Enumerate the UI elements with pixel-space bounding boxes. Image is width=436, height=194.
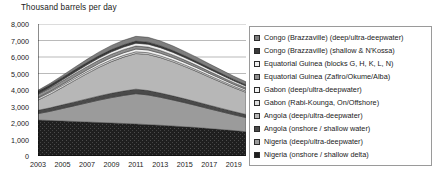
y-axis-tick-label: 0: [0, 152, 34, 161]
legend-swatch-icon: [254, 48, 260, 54]
legend-item[interactable]: Angola (onshore / shallow water): [254, 122, 428, 135]
legend-item[interactable]: Congo (Brazzaville) (shallow & N'Kossa): [254, 44, 428, 57]
legend-item-label: Nigeria (deep/ultra-deepwater): [264, 138, 363, 145]
legend-swatch-icon: [254, 87, 260, 93]
legend-item-label: Congo (Brazzaville) (shallow & N'Kossa): [264, 47, 395, 54]
plot-area: [38, 24, 246, 156]
x-axis-tick-label: 2005: [54, 160, 70, 169]
legend-item[interactable]: Congo (Brazzaville) (deep/ultra-deepwate…: [254, 31, 428, 44]
legend-item[interactable]: Equatorial Guinea (blocks G, H, K, L, N): [254, 57, 428, 70]
x-axis-tick-label: 2003: [30, 160, 46, 169]
legend-swatch-icon: [254, 61, 260, 67]
y-axis-tick-label: 3,000: [0, 102, 34, 111]
legend-item[interactable]: Nigeria (deep/ultra-deepwater): [254, 135, 428, 148]
legend-item-label: Nigeria (onshore / shallow delta): [264, 151, 369, 158]
legend-swatch-icon: [254, 35, 260, 41]
y-axis-tick-label: 4,000: [0, 86, 34, 95]
x-axis-tick-label: 2007: [79, 160, 95, 169]
x-axis-tick-label: 2011: [128, 160, 143, 169]
legend-swatch-icon: [254, 152, 260, 158]
legend-item-label: Equatorial Guinea (blocks G, H, K, L, N): [264, 60, 393, 67]
legend-item-label: Congo (Brazzaville) (deep/ultra-deepwate…: [264, 34, 404, 41]
legend-item[interactable]: Equatorial Guinea (Zafiro/Okume/Alba): [254, 70, 428, 83]
x-axis-tick-label: 2015: [177, 160, 193, 169]
y-axis-tick-label: 7,000: [0, 36, 34, 45]
legend-item[interactable]: Nigeria (onshore / shallow delta): [254, 148, 428, 161]
stacked-area-chart: Thousand barrels per day 01,0002,0003,00…: [0, 0, 436, 194]
y-axis-tick-label: 6,000: [0, 53, 34, 62]
legend-swatch-icon: [254, 113, 260, 119]
x-axis-tick-label: 2013: [152, 160, 168, 169]
legend-item-label: Gabon (Rabi-Kounga, On/Offshore): [264, 99, 379, 106]
x-axis-tick-labels: 200320052007200920112013201520172019: [38, 160, 246, 174]
legend-item[interactable]: Angola (deep/ultra-deepwater): [254, 109, 428, 122]
legend-swatch-icon: [254, 139, 260, 145]
y-axis-tick-label: 2,000: [0, 119, 34, 128]
legend-item-label: Angola (onshore / shallow water): [264, 125, 370, 132]
legend-swatch-icon: [254, 126, 260, 132]
legend-swatch-icon: [254, 74, 260, 80]
legend-item-label: Equatorial Guinea (Zafiro/Okume/Alba): [264, 73, 390, 80]
chart-title: Thousand barrels per day: [21, 3, 117, 12]
chart-legend: Congo (Brazzaville) (deep/ultra-deepwate…: [249, 26, 432, 166]
y-axis-tick-label: 8,000: [0, 20, 34, 29]
legend-item-label: Angola (deep/ultra-deepwater): [264, 112, 363, 119]
x-axis-tick-label: 2019: [226, 160, 242, 169]
legend-item-label: Gabon (deep/ultra-deepwater): [264, 86, 362, 93]
legend-swatch-icon: [254, 100, 260, 106]
x-axis-tick-label: 2009: [103, 160, 119, 169]
y-axis-tick-label: 1,000: [0, 135, 34, 144]
area-series-group: [38, 36, 246, 156]
legend-item[interactable]: Gabon (Rabi-Kounga, On/Offshore): [254, 96, 428, 109]
plot-svg: [38, 24, 246, 156]
y-axis-tick-labels: 01,0002,0003,0004,0005,0006,0007,0008,00…: [0, 24, 34, 156]
x-axis-tick-label: 2017: [201, 160, 217, 169]
y-axis-tick-label: 5,000: [0, 69, 34, 78]
legend-item[interactable]: Gabon (deep/ultra-deepwater): [254, 83, 428, 96]
